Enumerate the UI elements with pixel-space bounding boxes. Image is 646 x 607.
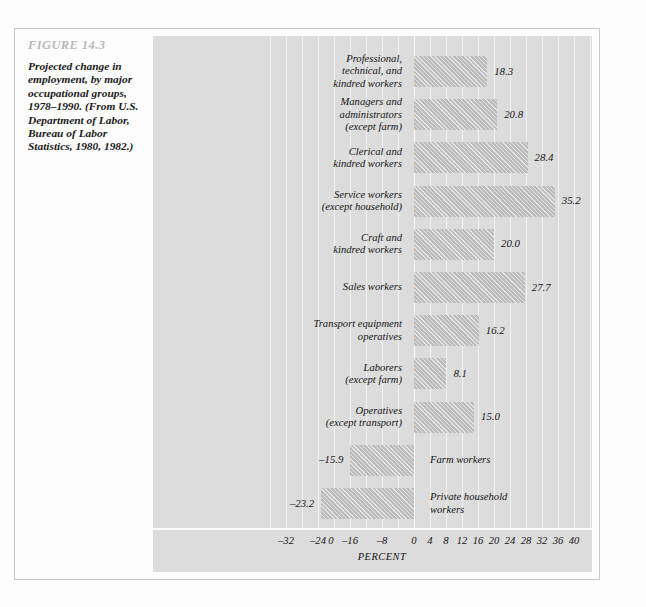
bar-row: 20.0Craft and kindred workers [153,229,592,260]
axis-tick-zero-left: 0 [328,535,333,546]
axis-tick-positive: 32 [537,535,548,546]
axis-tick-zero-right: 0 [411,535,416,546]
axis-tick-negative: –32 [278,535,294,546]
bar [350,445,414,476]
bar-value-label: 16.2 [486,324,505,336]
bar-value-label: 20.8 [504,108,523,120]
bar-value-label: 20.0 [501,237,520,249]
axis-tick-positive: 40 [569,535,580,546]
bar-value-label: 27.7 [532,281,551,293]
bar-value-label: 15.0 [481,410,500,422]
axis-tick-positive: 8 [443,535,448,546]
chart-plot-area: 18.3Professional, technical, and kindred… [153,36,592,528]
bar-category-label: Service workers (except household) [153,189,402,213]
axis-tick-positive: 20 [489,535,500,546]
bar-category-label: Laborers (except farm) [153,362,402,386]
bar-row: 20.8Managers and administrators (except … [153,99,592,130]
chart-x-axis: –32–24–16–800481216202428323640 PERCENT [153,528,592,572]
axis-tick-positive: 4 [427,535,432,546]
axis-tick-positive: 12 [457,535,468,546]
axis-tick-negative: –8 [377,535,388,546]
bar [414,142,528,173]
bar-value-label: 18.3 [494,65,513,77]
bar-category-label: Clerical and kindred workers [153,146,402,170]
bar-row: 8.1Laborers (except farm) [153,358,592,389]
bar [321,488,414,519]
bar-category-label: Professional, technical, and kindred wor… [153,53,402,90]
axis-tick-negative: –16 [342,535,358,546]
axis-tick-positive: 36 [553,535,564,546]
figure-caption-text: Projected change in employment, by major… [28,60,140,154]
bar-row: 18.3Professional, technical, and kindred… [153,56,592,87]
axis-tick-positive: 16 [473,535,484,546]
axis-tick-positive: 28 [521,535,532,546]
figure-number-label: FIGURE 14.3 [28,38,140,53]
bar-category-label: Sales workers [153,281,402,293]
bar-value-label: –23.2 [153,497,314,509]
bar [414,186,555,217]
chart-panel: 18.3Professional, technical, and kindred… [153,36,592,572]
bar-row: 35.2Service workers (except household) [153,186,592,217]
bar [414,229,494,260]
axis-tick-positive: 24 [505,535,516,546]
bar [414,315,479,346]
bar-category-label: Craft and kindred workers [153,232,402,256]
figure-root: FIGURE 14.3 Projected change in employme… [0,0,646,607]
bar-category-label: Farm workers [430,454,590,466]
bar-category-label: Operatives (except transport) [153,405,402,429]
figure-caption-block: FIGURE 14.3 Projected change in employme… [28,38,140,154]
bar-row: –23.2Private household workers [153,488,592,519]
bar-category-label: Private household workers [430,491,590,515]
axis-title-percent: PERCENT [358,551,407,562]
bar-value-label: –15.9 [153,453,343,465]
bar-row: 15.0Operatives (except transport) [153,402,592,433]
bar [414,99,497,130]
bar [414,358,446,389]
axis-tick-negative: –24 [310,535,326,546]
bar [414,272,525,303]
bar-row: –15.9Farm workers [153,445,592,476]
bar-row: 28.4Clerical and kindred workers [153,142,592,173]
bar-category-label: Transport equipment operatives [153,318,402,342]
bar-value-label: 35.2 [562,194,581,206]
bar-category-label: Managers and administrators (except farm… [153,96,402,133]
bar [414,402,474,433]
bar-row: 27.7Sales workers [153,272,592,303]
bar-row: 16.2Transport equipment operatives [153,315,592,346]
axis-rule [153,528,592,530]
bar-value-label: 8.1 [453,367,467,379]
bar-value-label: 28.4 [535,151,554,163]
bar [414,56,487,87]
